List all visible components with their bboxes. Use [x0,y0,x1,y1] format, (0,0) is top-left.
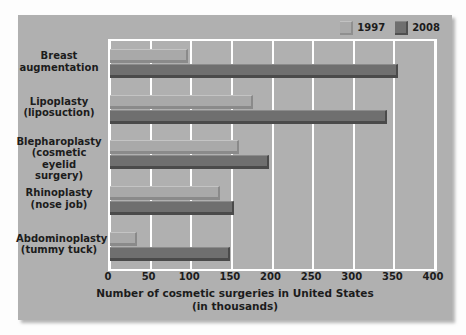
category-label-line: Rhinoplasty [16,187,102,199]
x-tick-label-200: 200 [260,271,281,282]
category-label-line: (nose job) [16,199,102,211]
chart-figure: 19972008 BreastaugmentationLipoplasty(li… [0,0,466,335]
bar-2008 [110,201,234,215]
category-label-line: Abdominoplasty [16,233,102,245]
category-axis-labels: BreastaugmentationLipoplasty(liposuction… [18,39,106,267]
bar-group [110,87,435,133]
bar-group [110,223,435,269]
legend-label-2008: 2008 [412,23,440,33]
category-label: Blepharoplasty(cosmetic eyelidsurgery) [16,136,102,182]
category-label-line: (cosmetic eyelid [16,147,102,170]
x-axis-title: Number of cosmetic surgeries in United S… [18,287,452,313]
x-axis-tick-labels: 050100150200250300350400 [108,271,437,285]
x-tick-label-300: 300 [341,271,362,282]
bar-2008 [110,155,269,169]
legend-swatch-icon-1997 [340,21,353,35]
x-tick-label-400: 400 [423,271,444,282]
category-label-line: (liposuction) [16,107,102,119]
category-label-line: surgery) [16,170,102,182]
bar-group [110,178,435,224]
bar-1997 [110,232,137,246]
bars-container [110,41,435,269]
x-axis-title-line2: (in thousands) [18,300,452,313]
bar-1997 [110,49,188,63]
x-tick-label-250: 250 [301,271,322,282]
x-tick-label-350: 350 [382,271,403,282]
category-label: Lipoplasty(liposuction) [16,96,102,119]
bar-group [110,41,435,87]
category-label-line: Breast [16,50,102,62]
bar-2008 [110,64,398,78]
bar-group [110,132,435,178]
bar-2008 [110,247,230,261]
legend-entry-1997: 1997 [340,21,385,35]
bar-1997 [110,140,239,154]
legend-entry-2008: 2008 [395,21,440,35]
category-label: Rhinoplasty(nose job) [16,187,102,210]
x-tick-label-150: 150 [219,271,240,282]
bar-1997 [110,95,253,109]
category-label-line: augmentation [16,62,102,74]
chart-panel: 19972008 BreastaugmentationLipoplasty(li… [18,15,452,320]
category-label-line: (tummy tuck) [16,244,102,256]
category-label-line: Blepharoplasty [16,136,102,148]
x-axis-title-line1: Number of cosmetic surgeries in United S… [18,287,452,300]
bar-2008 [110,110,387,124]
plot-area [108,39,437,271]
x-tick-label-50: 50 [142,271,156,282]
legend-swatch-icon-2008 [395,21,408,35]
category-label-line: Lipoplasty [16,96,102,108]
category-label: Abdominoplasty(tummy tuck) [16,233,102,256]
category-label: Breastaugmentation [16,50,102,73]
x-tick-label-0: 0 [105,271,112,282]
x-tick-label-100: 100 [179,271,200,282]
legend-label-1997: 1997 [357,23,385,33]
bar-1997 [110,186,220,200]
chart-legend: 19972008 [340,21,440,35]
